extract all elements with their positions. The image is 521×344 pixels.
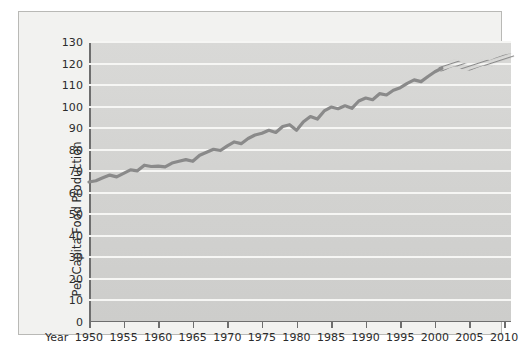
y-axis-tick-label: 60	[69, 186, 83, 199]
x-axis-tick-mark	[469, 322, 471, 328]
x-axis-tick-mark	[89, 322, 91, 328]
y-axis-tick-label: 110	[62, 79, 83, 92]
plot-area	[89, 42, 511, 322]
x-axis-tick-labels: 1950195519601965197019751980198519901995…	[89, 322, 511, 344]
x-axis-tick-label: 2005	[455, 331, 483, 344]
y-axis-tick-label: 100	[62, 100, 83, 113]
y-axis-tick-label: 50	[69, 208, 83, 221]
chart-figure: Per Capita Food Production 0102030405060…	[0, 0, 521, 344]
x-axis-tick-mark	[297, 322, 299, 328]
x-axis-tick-mark	[193, 322, 195, 328]
y-axis-tick-label: 120	[62, 57, 83, 70]
y-axis-tick-labels: 0102030405060708090100110120130	[47, 42, 83, 322]
x-axis-tick-mark	[227, 322, 229, 328]
series-line	[442, 57, 511, 69]
x-axis-tick-mark	[400, 322, 402, 328]
x-axis-tick-label: 1965	[179, 331, 207, 344]
x-axis-tick-mark	[158, 322, 160, 328]
x-axis-tick-label: 1955	[109, 331, 137, 344]
y-axis-tick-label: 80	[69, 143, 83, 156]
x-axis-tick-label: 1980	[282, 331, 310, 344]
y-axis-tick-label: 130	[62, 36, 83, 49]
series-lines	[89, 42, 511, 322]
y-axis-tick-label: 30	[69, 251, 83, 264]
y-axis-tick-label: 70	[69, 165, 83, 178]
x-axis-tick-label: 1995	[386, 331, 414, 344]
x-axis-tick-label: 1960	[144, 331, 172, 344]
x-axis-title: Year	[45, 331, 68, 344]
series-line	[89, 68, 442, 182]
y-axis-tick-label: 10	[69, 294, 83, 307]
x-axis-tick-label: 1990	[352, 331, 380, 344]
chart-frame: Per Capita Food Production 0102030405060…	[18, 11, 502, 335]
x-axis-tick-mark	[262, 322, 264, 328]
x-axis-tick-label: 1985	[317, 331, 345, 344]
y-axis-tick-label: 40	[69, 229, 83, 242]
x-axis-tick-label: 1975	[248, 331, 276, 344]
x-axis-tick-label: 1970	[213, 331, 241, 344]
x-axis-tick-mark	[435, 322, 437, 328]
y-axis-tick-label: 0	[76, 316, 83, 329]
y-axis-tick-label: 90	[69, 122, 83, 135]
x-axis-tick-label: 2000	[421, 331, 449, 344]
x-axis-tick-mark	[504, 322, 506, 328]
x-axis-tick-mark	[124, 322, 126, 328]
x-axis-tick-mark	[331, 322, 333, 328]
x-axis-tick-label: 1950	[75, 331, 103, 344]
x-axis-tick-label: 2010	[490, 331, 518, 344]
x-axis-tick-mark	[366, 322, 368, 328]
y-axis-tick-label: 20	[69, 272, 83, 285]
